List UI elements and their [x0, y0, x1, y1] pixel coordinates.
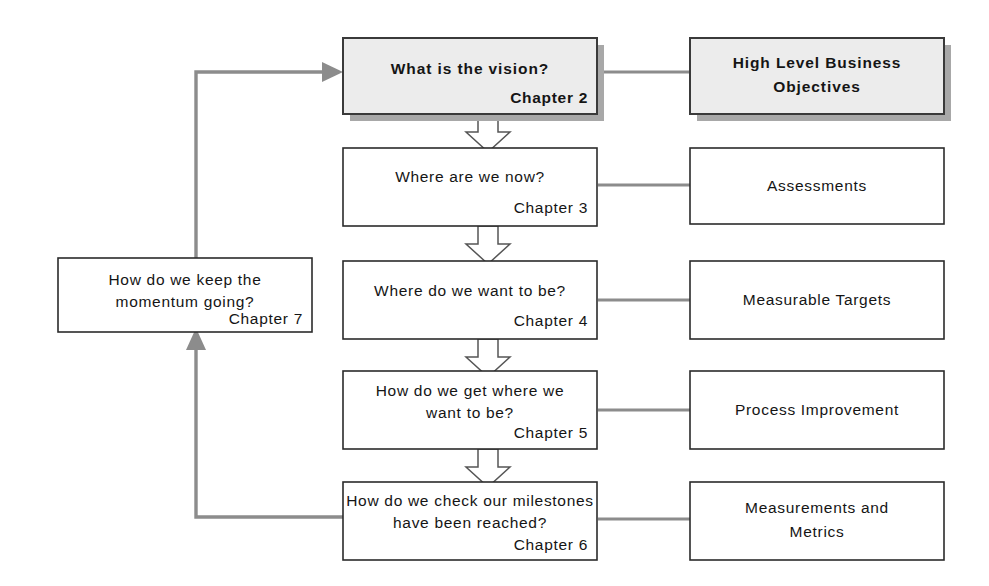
box-where-want[interactable]: Where do we want to be? Chapter 4	[343, 261, 597, 339]
box-measurements-metrics-line-1: Measurements and	[745, 499, 889, 516]
box-momentum[interactable]: How do we keep the momentum going? Chapt…	[58, 258, 312, 332]
box-where-want-chapter: Chapter 4	[514, 312, 588, 329]
flowchart-svg: What is the vision? Chapter 2 Where are …	[0, 0, 989, 586]
box-how-get[interactable]: How do we get where we want to be? Chapt…	[343, 371, 597, 449]
flowchart-canvas: What is the vision? Chapter 2 Where are …	[0, 0, 989, 586]
box-assessments-line-1: Assessments	[767, 177, 867, 194]
box-measurements-metrics[interactable]: Measurements and Metrics	[690, 482, 944, 560]
box-objectives[interactable]: High Level Business Objectives	[690, 38, 944, 114]
box-how-check-line-1: How do we check our milestones	[346, 492, 594, 509]
box-process-improvement-line-1: Process Improvement	[735, 401, 899, 418]
box-assessments[interactable]: Assessments	[690, 148, 944, 224]
box-momentum-line-2: momentum going?	[116, 293, 255, 310]
feedback-arrowhead-right	[322, 62, 343, 82]
box-vision[interactable]: What is the vision? Chapter 2	[343, 38, 597, 114]
box-vision-chapter: Chapter 2	[510, 89, 588, 106]
block-arrow-down-wherenow-to-wherewant	[466, 226, 510, 264]
box-how-get-line-1: How do we get where we	[376, 382, 565, 399]
box-process-improvement[interactable]: Process Improvement	[690, 371, 944, 449]
box-measurable-targets[interactable]: Measurable Targets	[690, 261, 944, 339]
box-where-now-chapter: Chapter 3	[514, 199, 588, 216]
box-where-want-line-1: Where do we want to be?	[374, 282, 566, 299]
box-how-get-chapter: Chapter 5	[514, 424, 588, 441]
box-where-now[interactable]: Where are we now? Chapter 3	[343, 148, 597, 226]
box-objectives-line-2: Objectives	[773, 78, 860, 95]
box-measurements-metrics-rect[interactable]	[690, 482, 944, 560]
box-objectives-rect[interactable]	[690, 38, 944, 114]
box-objectives-line-1: High Level Business	[733, 54, 902, 71]
feedback-loop-check-to-momentum	[186, 328, 343, 517]
box-vision-line-1: What is the vision?	[391, 60, 549, 77]
box-measurements-metrics-line-2: Metrics	[790, 523, 845, 540]
box-measurable-targets-line-1: Measurable Targets	[743, 291, 891, 308]
box-momentum-chapter: Chapter 7	[229, 310, 303, 327]
box-momentum-line-1: How do we keep the	[108, 271, 261, 288]
box-how-check[interactable]: How do we check our milestones have been…	[343, 482, 597, 560]
box-how-check-line-2: have been reached?	[393, 514, 547, 531]
box-where-now-line-1: Where are we now?	[395, 168, 545, 185]
box-how-get-line-2: want to be?	[425, 404, 514, 421]
feedback-path-left-up	[196, 345, 343, 517]
box-how-check-chapter: Chapter 6	[514, 536, 588, 553]
